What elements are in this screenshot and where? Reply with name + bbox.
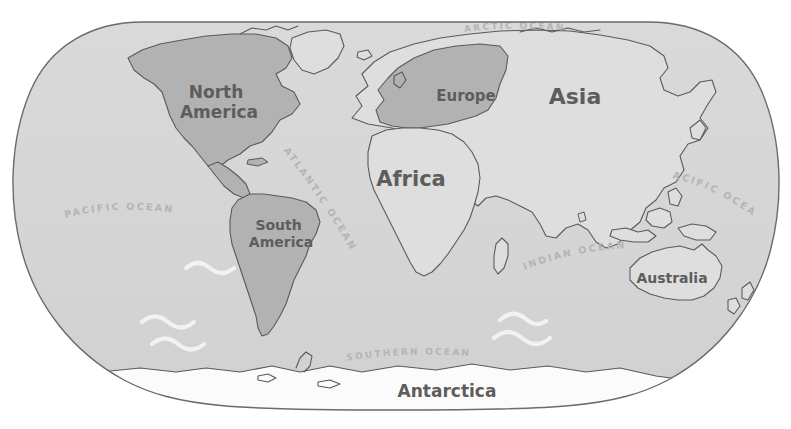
continent-label-antarctica: Antarctica [398,381,497,401]
continent-label-north-america: North America [180,82,258,122]
continent-label-asia: Asia [549,84,602,109]
continent-label-south-america: South America [249,217,313,250]
continent-label-europe: Europe [436,87,496,105]
continent-label-australia: Australia [636,270,707,286]
globe-contents: ARCTIC OCEAN PACIFIC OCEAN ATLANTIC OCEA… [0,0,791,429]
world-map-svg: ARCTIC OCEAN PACIFIC OCEAN ATLANTIC OCEA… [0,0,791,429]
landmass-sri-lanka [578,212,586,222]
continent-label-africa: Africa [376,167,446,191]
world-map: ARCTIC OCEAN PACIFIC OCEAN ATLANTIC OCEA… [0,0,791,429]
